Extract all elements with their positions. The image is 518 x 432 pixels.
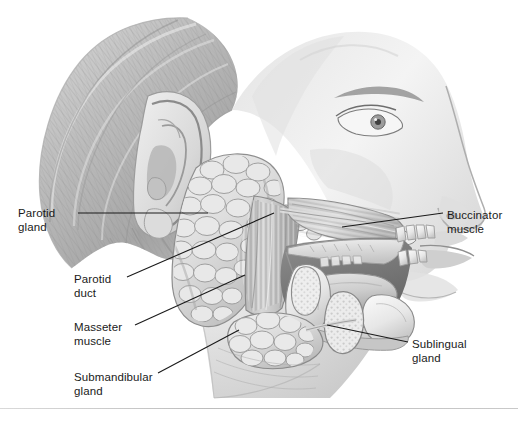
salivary-glands-illustration [0,0,518,432]
label-masseter-muscle: Masseter muscle [74,320,122,348]
label-submandibular-gland: Submandibular gland [74,370,153,398]
anatomical-figure: Parotid gland Parotid duct Masseter musc… [0,0,518,432]
label-buccinator-muscle: Buccinator muscle [447,208,502,236]
label-parotid-duct: Parotid duct [74,272,111,300]
label-parotid-gland: Parotid gland [18,206,55,234]
footer-rule [0,408,518,409]
label-sublingual-gland: Sublingual gland [412,337,467,365]
sublingual-gland-anterior [291,267,320,315]
